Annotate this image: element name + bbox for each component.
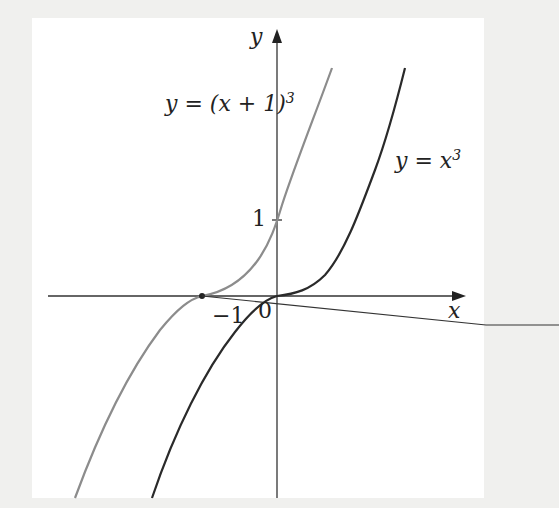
y-axis-label: y — [250, 24, 262, 49]
curve-label-text: y = x — [395, 148, 452, 173]
x-tick-label-neg1: −1 — [212, 303, 244, 328]
curve-x-plus-1-cubed — [75, 68, 332, 498]
curve-x-cubed — [152, 68, 405, 498]
origin-label: 0 — [258, 298, 272, 323]
y-tick-label-1: 1 — [252, 206, 266, 231]
cubic-graph — [0, 0, 559, 508]
y-axis-arrow-icon — [272, 29, 282, 43]
x-axis-label: x — [448, 298, 460, 323]
curve-label-x-cubed: y = x3 — [395, 147, 461, 173]
curve-label-text: y = (x + 1) — [165, 91, 286, 116]
curve-label-x-plus-1-cubed: y = (x + 1)3 — [165, 90, 295, 116]
curve-label-exponent: 3 — [286, 90, 295, 106]
curve-label-exponent: 3 — [452, 147, 461, 163]
